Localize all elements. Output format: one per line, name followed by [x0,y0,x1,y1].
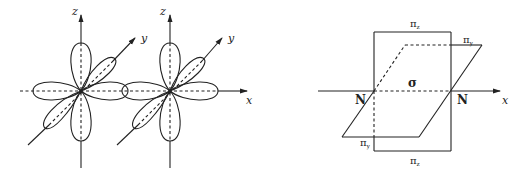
py-lobe-upper-1 [81,57,116,91]
p-orbitals-panel: z y z y x [20,5,253,168]
z-label-2: z [159,5,166,18]
y-axis-2-upper [202,38,222,61]
pi-y-plane-left-hidden [374,45,405,91]
px-lobe-right-2 [170,82,218,100]
px-lobe-left-1 [33,82,81,100]
y-axis-1-upper [113,38,135,61]
n2-orbital-diagram: z y z y x πz πy σ N N x πy πz [0,0,521,174]
py-lobe-lower-2 [132,91,170,129]
pi-z-top-label: πz [410,18,420,30]
n-atom-right-label: N [457,93,468,107]
y-label-1: y [140,32,148,45]
pi-z-bottom-label: πz [410,155,420,167]
px-lobe-left-2 [122,82,170,100]
sigma-label: σ [408,76,417,90]
py-lobe-upper-2 [170,57,205,91]
y-label-2: y [227,32,235,45]
bonding-panel: πz πy σ N N x πy πz [318,18,509,167]
n-atom-left-label: N [355,93,366,107]
x-label-left: x [246,94,253,107]
x-label-right: x [502,94,509,107]
py-lobe-lower-1 [43,91,81,129]
z-label-1: z [71,5,78,18]
pi-y-bottom-label: πy [360,137,371,150]
